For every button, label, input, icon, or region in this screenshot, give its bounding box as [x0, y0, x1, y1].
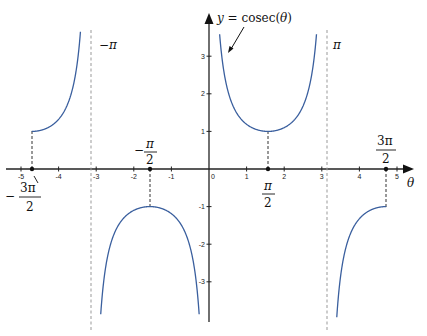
asymptote-label-pi: π — [332, 38, 342, 52]
x-tick-label: -4 — [55, 173, 61, 180]
x-axis-label: θ — [407, 176, 415, 190]
x-tick-label: 4 — [357, 173, 361, 180]
asymptote-label-neg-pi: −π — [99, 38, 118, 52]
x-tick-label: -2 — [131, 173, 137, 180]
x-tick-label: -5 — [18, 173, 24, 180]
y-axis-arrow-icon — [205, 13, 214, 24]
y-tick-label: 2 — [201, 90, 205, 97]
y-tick-label: 3 — [201, 53, 205, 60]
label-neg-three-half-pi: − 3π 2 — [5, 176, 41, 214]
y-tick-label: -1 — [199, 203, 205, 210]
cosec-chart: -5-4-3-2-1012345 -3-2-1123 y = cosec(θ) … — [0, 0, 427, 336]
x-tick-label: 3 — [320, 173, 324, 180]
svg-text:2: 2 — [264, 196, 272, 210]
svg-text:2: 2 — [146, 153, 154, 167]
svg-text:2: 2 — [382, 152, 390, 166]
svg-text:π: π — [263, 179, 273, 193]
axes — [6, 13, 414, 322]
curve-branch-1 — [32, 32, 81, 132]
svg-text:2: 2 — [26, 200, 34, 214]
curve-branch-2 — [101, 207, 199, 315]
svg-text:y = cosec(θ): y = cosec(θ) — [216, 11, 292, 25]
function-label: y = cosec(θ) — [216, 11, 292, 53]
label-half-pi: π 2 — [262, 179, 275, 210]
func-close: ) — [287, 11, 292, 25]
svg-text:−: − — [134, 143, 144, 157]
x-axis-arrow-icon — [403, 165, 414, 174]
y-tick-label: -3 — [199, 278, 205, 285]
curve-branch-3 — [220, 34, 317, 131]
curve-branch-4 — [337, 207, 386, 318]
x-tick-label: 5 — [395, 173, 399, 180]
svg-text:π: π — [145, 137, 155, 151]
svg-text:3π: 3π — [377, 134, 393, 148]
dot-neg-three-half-pi — [30, 167, 34, 171]
label-neg-half-pi: − π 2 — [134, 137, 157, 167]
x-tick-label: 2 — [282, 173, 286, 180]
function-label-pointer — [231, 27, 244, 49]
dot-neg-half-pi — [148, 167, 152, 171]
y-tick-label: -2 — [199, 241, 205, 248]
svg-text:−: − — [5, 189, 15, 203]
label-three-half-pi: 3π 2 — [376, 134, 396, 166]
x-tick-label: 1 — [245, 173, 249, 180]
x-tick-label: -1 — [168, 173, 174, 180]
svg-text:3π: 3π — [20, 181, 36, 195]
dot-three-half-pi — [384, 167, 388, 171]
x-tick-label: -3 — [93, 173, 99, 180]
x-tick-label: 0 — [211, 173, 215, 180]
dot-half-pi — [266, 167, 270, 171]
func-body: = cosec( — [224, 11, 280, 25]
y-tick-label: 1 — [201, 128, 205, 135]
